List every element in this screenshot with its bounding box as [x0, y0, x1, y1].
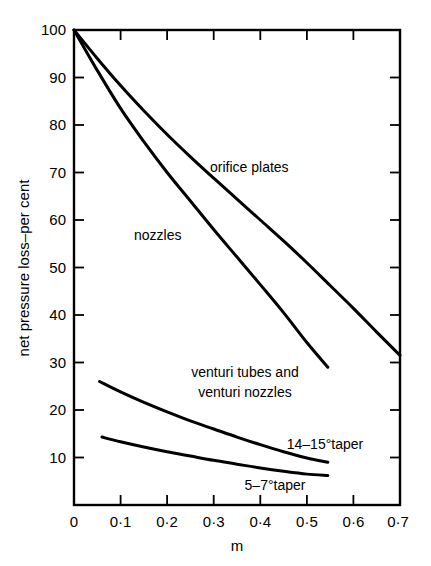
- x-tick-label-0: 0: [70, 513, 78, 530]
- venturi-group-label-line1: venturi tubes and: [191, 364, 298, 380]
- y-tick-label-30: 30: [49, 354, 66, 371]
- y-tick-label-100: 100: [41, 21, 66, 38]
- nozzles-label: nozzles: [134, 227, 181, 243]
- venturi-group-label-line2: venturi nozzles: [198, 384, 291, 400]
- y-tick-label-60: 60: [49, 211, 66, 228]
- x-axis-title: m: [231, 537, 244, 554]
- y-tick-label-20: 20: [49, 401, 66, 418]
- y-tick-label-90: 90: [49, 69, 66, 86]
- x-tick-label-0-6: 0·6: [343, 513, 365, 530]
- y-tick-label-70: 70: [49, 164, 66, 181]
- chart-figure: 100 90 80 70 60 50 40 30 20 10 0 0·1 0·2…: [0, 0, 431, 566]
- x-tick-label-0-3: 0·3: [203, 513, 225, 530]
- orifice-plates-label: orifice plates: [210, 159, 289, 175]
- y-tick-label-40: 40: [49, 306, 66, 323]
- x-tick-label-0-2: 0·2: [156, 513, 178, 530]
- net-pressure-loss-chart: 100 90 80 70 60 50 40 30 20 10 0 0·1 0·2…: [0, 0, 431, 566]
- y-axis-title: net pressure loss–per cent: [15, 179, 32, 357]
- taper-5-7-label: 5–7°taper: [245, 477, 306, 493]
- x-tick-label-0-1: 0·1: [110, 513, 132, 530]
- x-tick-label-0-4: 0·4: [249, 513, 271, 530]
- y-tick-label-50: 50: [49, 259, 66, 276]
- taper-14-15-label: 14–15°taper: [287, 436, 364, 452]
- x-tick-label-0-7: 0·7: [387, 513, 409, 530]
- y-tick-label-80: 80: [49, 116, 66, 133]
- x-tick-label-0-5: 0·5: [296, 513, 318, 530]
- y-tick-label-10: 10: [49, 449, 66, 466]
